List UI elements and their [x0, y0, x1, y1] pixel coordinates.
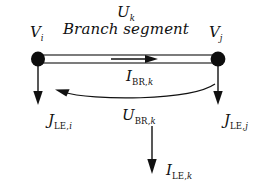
leakage-arrow-center: [147, 126, 156, 174]
label-branch-current-subscript-roman: BR,: [132, 77, 148, 87]
label-branch-current: IBR,k: [126, 68, 153, 84]
label-leakage-current-left-subscript-italic: i: [69, 121, 72, 131]
label-leakage-current-right: JLE,j: [224, 112, 248, 128]
label-node-right-subscript: j: [220, 33, 223, 43]
label-node-right: Vj: [209, 24, 223, 40]
branch-segment-diagram: Uk Branch segment Vi Vj IBR,k UBR,k JLE,…: [0, 0, 261, 185]
label-branch-segment-caption: Branch segment: [63, 22, 189, 37]
label-leakage-current-branch-subscript-roman: LE,: [172, 171, 187, 181]
label-node-left-subscript: i: [41, 33, 44, 43]
label-branch-voltage-drop-base: U: [122, 106, 135, 124]
label-branch-voltage-drop-subscript-italic: k: [151, 116, 156, 126]
label-branch-voltage-top: Uk: [117, 4, 135, 20]
label-leakage-current-left: JLE,i: [48, 112, 72, 128]
label-branch-voltage-top-base: U: [117, 3, 130, 21]
label-node-left: Vi: [30, 24, 44, 40]
label-leakage-current-left-subscript-roman: LE,: [54, 121, 69, 131]
label-branch-voltage-drop-subscript-roman: BR,: [135, 116, 151, 126]
label-branch-voltage-drop: UBR,k: [122, 107, 156, 123]
label-leakage-current-right-subscript-roman: LE,: [230, 121, 245, 131]
leakage-arrow-left: [33, 64, 42, 105]
label-leakage-current-right-subscript-italic: j: [245, 121, 248, 131]
label-branch-current-subscript-italic: k: [148, 77, 153, 87]
label-leakage-current-branch-subscript-italic: k: [187, 171, 192, 181]
label-leakage-current-branch: ILE,k: [166, 162, 192, 178]
label-node-right-base: V: [209, 23, 220, 41]
label-node-left-base: V: [30, 23, 41, 41]
